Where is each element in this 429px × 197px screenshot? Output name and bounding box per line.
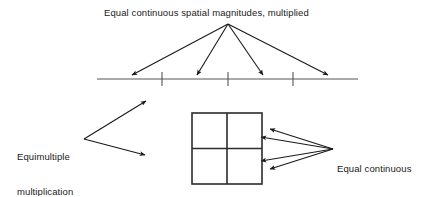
number-line-group [97,72,358,86]
equimultiple-multiplication-label: Equimultiple multiplication [17,128,73,196]
title-label: Equal continuous spatial magnitudes, mul… [104,7,309,19]
right-arrow-2 [261,137,333,149]
left-arrow-1 [84,101,146,139]
left-arrow-2 [84,139,145,155]
equal-continuous-magnitudes-label: Equal continuous spatial magnitudes, mul… [337,140,421,196]
top-arrow-1 [132,24,228,75]
left-label-line-2: multiplication [17,186,73,197]
right-arrow-4 [270,149,333,169]
title-label-text: Equal continuous spatial magnitudes, mul… [104,7,309,18]
top-arrow-3 [228,24,263,75]
top-arrow-4 [228,24,328,75]
diagram-canvas: Equal continuous spatial magnitudes, mul… [0,0,429,196]
left-arrows-group [84,101,146,155]
top-arrows-group [132,24,328,75]
right-arrows-group [261,129,333,169]
right-arrow-3 [261,149,333,161]
square-grid [192,113,262,184]
right-arrow-1 [270,129,333,149]
left-label-line-1: Equimultiple [17,151,73,163]
right-label-line-1: Equal continuous [337,163,421,175]
